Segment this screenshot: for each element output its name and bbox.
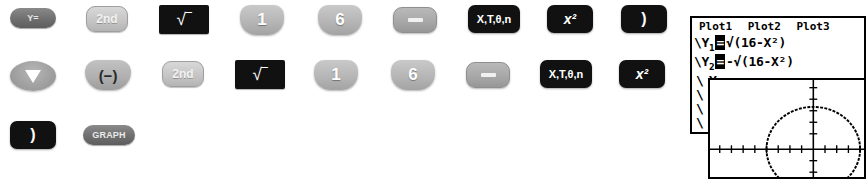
- x-squared-key-2-label: x²: [636, 66, 648, 82]
- second-key-2[interactable]: 2nd: [162, 61, 204, 87]
- sqrt-key[interactable]: √‾: [159, 5, 209, 34]
- close-paren-key[interactable]: ): [621, 5, 667, 33]
- graph-screen[interactable]: [708, 78, 866, 179]
- y5-slot-mark[interactable]: \: [696, 101, 704, 116]
- sqrt-key-label: √‾: [177, 11, 192, 28]
- y1-index: 1: [709, 42, 714, 53]
- y-equals-key[interactable]: Y=: [10, 8, 56, 28]
- one-key-label: 1: [257, 10, 266, 30]
- close-paren-key-2[interactable]: ): [10, 121, 56, 149]
- sqrt-key-2-label: √‾: [253, 66, 268, 83]
- close-paren-key-label: ): [641, 10, 646, 28]
- y1-slot: \Y: [694, 35, 709, 50]
- y2-index: 2: [709, 61, 714, 72]
- graph-plot-area: [710, 80, 864, 177]
- down-arrow-key[interactable]: [10, 61, 56, 91]
- y6-slot-mark[interactable]: \: [696, 115, 704, 130]
- second-key-2-label: 2nd: [172, 67, 193, 81]
- x-t-theta-n-key-label: X,T,θ,n: [477, 13, 512, 25]
- second-key-label: 2nd: [96, 12, 117, 26]
- y2-equals-highlight[interactable]: =: [715, 54, 725, 69]
- x-squared-key-2[interactable]: x²: [619, 60, 665, 88]
- plot3-label[interactable]: Plot3: [797, 20, 830, 33]
- close-paren-key-2-label: ): [30, 126, 35, 144]
- six-key-label: 6: [335, 10, 344, 30]
- sqrt-key-2[interactable]: √‾: [235, 60, 285, 89]
- calculator-screens: Plot1 Plot2 Plot3 \Y1=√(16-X²) \Y2=-√(16…: [688, 0, 863, 179]
- x-squared-key[interactable]: x²: [547, 5, 593, 33]
- x-t-theta-n-key-2[interactable]: X,T,θ,n: [540, 60, 592, 88]
- keystroke-sequence: Y= 2nd √‾ 1 6 X,T,θ,n x² ): [0, 0, 690, 179]
- y3-slot-mark[interactable]: \: [696, 73, 704, 88]
- y2-row[interactable]: \Y2=-√(16-X²): [694, 54, 794, 72]
- chevron-down-icon: [25, 70, 41, 83]
- y1-equals-highlight[interactable]: =: [715, 35, 725, 50]
- one-key[interactable]: 1: [240, 5, 284, 35]
- y1-expression[interactable]: √(16-X²): [726, 35, 786, 50]
- y2-slot: \Y: [694, 54, 709, 69]
- minus-icon: [408, 18, 423, 22]
- y4-slot-mark[interactable]: \: [696, 87, 704, 102]
- negate-key-label: (−): [99, 67, 118, 84]
- second-key[interactable]: 2nd: [86, 6, 128, 32]
- plot2-label[interactable]: Plot2: [748, 20, 781, 33]
- plot1-label[interactable]: Plot1: [699, 20, 732, 33]
- y7-slot-mark[interactable]: \: [696, 129, 704, 134]
- six-key[interactable]: 6: [318, 5, 362, 35]
- y1-row[interactable]: \Y1=√(16-X²): [694, 35, 786, 53]
- x-t-theta-n-key[interactable]: X,T,θ,n: [468, 5, 520, 33]
- y2-expression[interactable]: -√(16-X²): [726, 54, 794, 69]
- minus-key-2[interactable]: [466, 62, 510, 88]
- minus-key[interactable]: [393, 7, 437, 33]
- one-key-2-label: 1: [331, 65, 340, 85]
- six-key-2[interactable]: 6: [391, 60, 435, 90]
- x-t-theta-n-key-2-label: X,T,θ,n: [549, 68, 584, 80]
- one-key-2[interactable]: 1: [314, 60, 358, 90]
- six-key-2-label: 6: [408, 65, 417, 85]
- plot-indicator-row: Plot1 Plot2 Plot3: [699, 20, 839, 33]
- y-equals-key-label: Y=: [27, 13, 39, 23]
- negate-key[interactable]: (−): [85, 60, 131, 90]
- x-squared-key-label: x²: [564, 11, 576, 27]
- graph-key[interactable]: GRAPH: [83, 125, 135, 145]
- minus-icon-2: [481, 73, 496, 77]
- graph-key-label: GRAPH: [92, 130, 126, 140]
